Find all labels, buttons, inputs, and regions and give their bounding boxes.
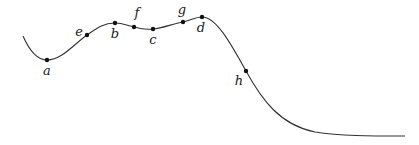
point-label-b: b (111, 26, 119, 41)
point-d (200, 15, 204, 19)
point-f (132, 25, 136, 29)
point-h (244, 69, 248, 73)
point-b (113, 21, 117, 25)
point-label-f: f (134, 5, 142, 20)
point-label-g: g (178, 2, 186, 17)
point-label-c: c (149, 32, 157, 47)
point-label-e: e (75, 24, 83, 39)
point-label-d: d (197, 20, 205, 35)
point-e (85, 33, 89, 37)
curve-diagram: aebfcgdh (0, 0, 419, 145)
point-g (181, 20, 185, 24)
labeled-points: aebfcgdh (43, 2, 248, 88)
point-c (151, 27, 155, 31)
point-a (45, 58, 49, 62)
point-label-a: a (43, 63, 51, 78)
point-label-h: h (235, 73, 243, 88)
